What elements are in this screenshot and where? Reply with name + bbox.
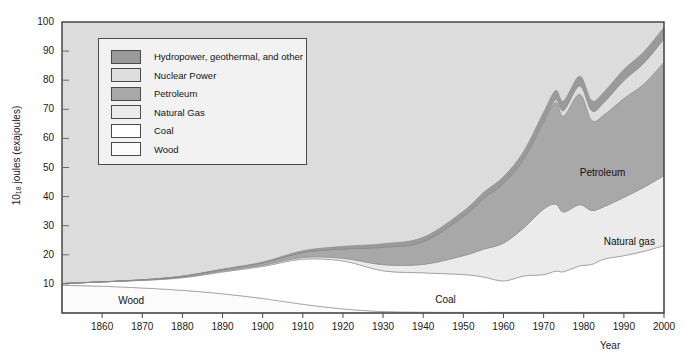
y-axis-title: 1018 joules (exajoules)	[11, 96, 22, 216]
x-tick-label: 1930	[363, 322, 403, 332]
legend-label: Wood	[154, 144, 179, 155]
chart-legend: Hydropower, geothermal, and otherNuclear…	[98, 38, 307, 165]
series-label: Petroleum	[580, 167, 626, 178]
legend-item: Nuclear Power	[111, 68, 216, 83]
legend-item: Natural Gas	[111, 105, 205, 120]
legend-label: Nuclear Power	[154, 70, 216, 81]
series-label: Coal	[435, 294, 456, 305]
y-tick-label: 80	[28, 75, 54, 85]
legend-swatch	[111, 87, 141, 101]
chart-container: 1018 joules (exajoules) Year 10203040506…	[0, 0, 695, 359]
legend-swatch	[111, 142, 141, 156]
x-tick-label: 1870	[122, 322, 162, 332]
y-tick-label: 10	[28, 279, 54, 289]
y-tick-label: 100	[28, 17, 54, 27]
x-tick-label: 1920	[323, 322, 363, 332]
x-tick-label: 1960	[483, 322, 523, 332]
legend-label: Hydropower, geothermal, and other	[154, 51, 303, 62]
series-label: Natural gas	[604, 236, 655, 247]
legend-item: Hydropower, geothermal, and other	[111, 49, 303, 64]
series-label: Wood	[118, 295, 144, 306]
legend-swatch	[111, 105, 141, 119]
y-tick-label: 40	[28, 192, 54, 202]
legend-swatch	[111, 124, 141, 138]
y-tick-label: 90	[28, 46, 54, 56]
x-tick-label: 1910	[283, 322, 323, 332]
legend-swatch	[111, 68, 141, 82]
y-tick-label: 30	[28, 221, 54, 231]
x-axis-title: Year	[600, 340, 620, 351]
x-tick-label: 1990	[604, 322, 644, 332]
legend-item: Wood	[111, 142, 179, 157]
x-tick-label: 1900	[243, 322, 283, 332]
x-tick-label: 1860	[82, 322, 122, 332]
x-tick-label: 1880	[162, 322, 202, 332]
y-axis-title-base: 10	[11, 194, 22, 205]
x-tick-label: 1950	[443, 322, 483, 332]
legend-swatch	[111, 50, 141, 64]
legend-item: Coal	[111, 123, 174, 138]
y-axis-title-subscript: 18	[15, 186, 22, 194]
x-tick-label: 1980	[564, 322, 604, 332]
y-tick-label: 60	[28, 133, 54, 143]
y-tick-label: 50	[28, 163, 54, 173]
legend-item: Petroleum	[111, 86, 197, 101]
y-tick-label: 70	[28, 104, 54, 114]
x-tick-label: 2000	[644, 322, 684, 332]
y-axis-title-rest: joules (exajoules)	[11, 106, 22, 187]
x-tick-label: 1940	[403, 322, 443, 332]
x-tick-label: 1970	[524, 322, 564, 332]
y-tick-label: 20	[28, 250, 54, 260]
legend-label: Petroleum	[154, 88, 197, 99]
legend-label: Natural Gas	[154, 107, 205, 118]
legend-label: Coal	[154, 125, 174, 136]
x-tick-label: 1890	[203, 322, 243, 332]
